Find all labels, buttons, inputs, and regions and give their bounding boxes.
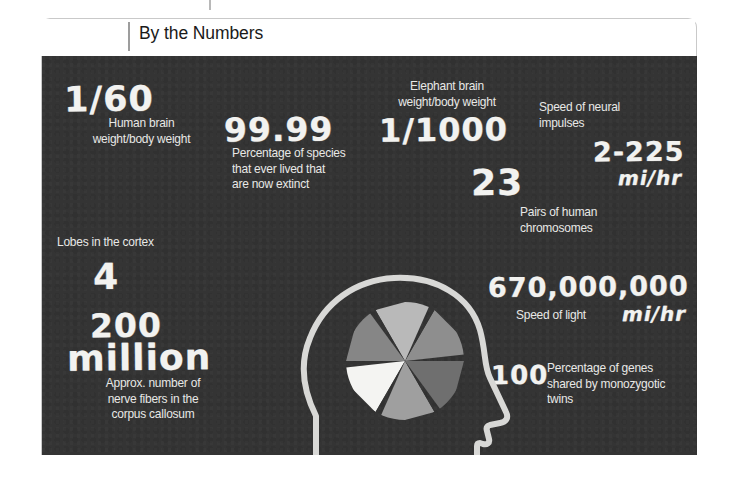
dark-stats-panel: 1/60 Human brain weight/body weight 99.9… [42, 56, 697, 455]
human-head-profile-figure [294, 266, 544, 455]
stat-value-neural-impulse-speed: 2-225 [593, 136, 685, 168]
stat-value-cortex-lobes: 4 [93, 256, 119, 297]
page-title: By the Numbers [139, 23, 263, 44]
stat-value-human-brain-ratio: 1/60 [64, 79, 154, 120]
stat-caption-elephant-brain-ratio: Elephant brain weight/body weight [378, 78, 516, 109]
brain-pie-chart [346, 302, 464, 420]
stat-caption-neural-impulse-speed: Speed of neural impulses [539, 99, 663, 130]
stat-caption-monozygotic-twin-genes: Percentage of genes shared by monozygoti… [547, 360, 694, 407]
stat-caption-species-extinct: Percentage of species that ever lived th… [232, 145, 393, 192]
stat-caption-chromosome-pairs: Pairs of human chromosomes [520, 204, 640, 235]
stat-value-elephant-brain-ratio: 1/1000 [379, 110, 508, 149]
stat-unit-neural-impulse-speed: mi/hr [618, 166, 682, 191]
title-divider-rule [128, 22, 130, 51]
stat-value-corpus-callosum-fibers-line2: million [67, 336, 212, 379]
infographic-page: By the Numbers 1/60 Human brain weight/b… [0, 0, 729, 484]
stat-unit-speed-of-light: mi/hr [622, 302, 686, 327]
stat-value-chromosome-pairs: 23 [471, 162, 524, 204]
stat-value-species-extinct: 99.99 [224, 109, 334, 149]
stat-caption-corpus-callosum-fibers: Approx. number of nerve fibers in the co… [76, 375, 231, 422]
top-tick-rule [209, 0, 211, 10]
stat-caption-human-brain-ratio: Human brain weight/body weight [70, 115, 213, 146]
stat-caption-cortex-lobes: Lobes in the cortex [57, 234, 209, 250]
